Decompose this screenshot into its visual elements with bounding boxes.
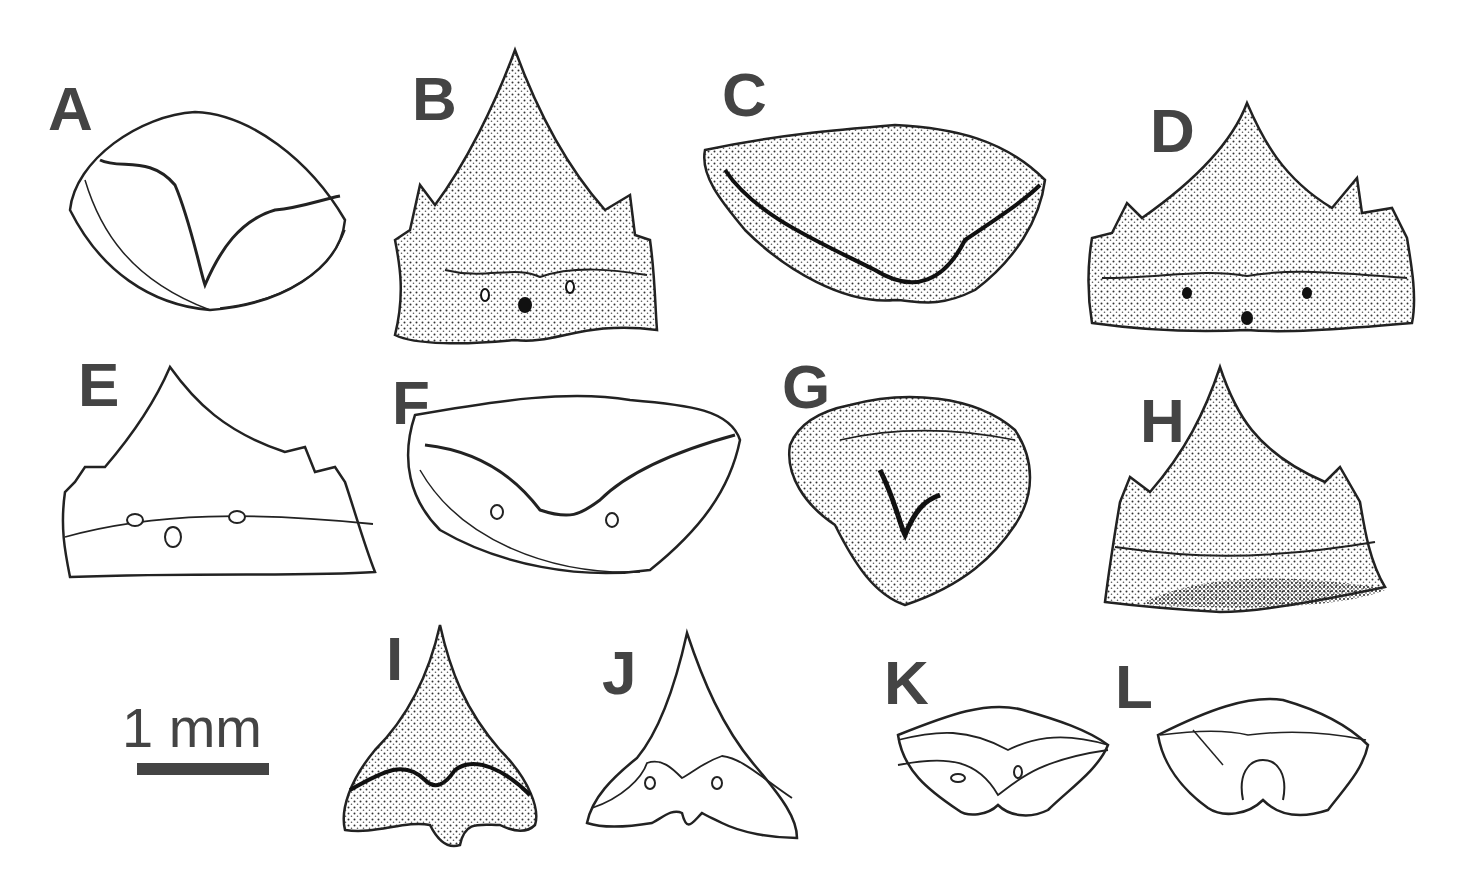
tooth-c-drawing (695, 120, 1055, 360)
tooth-b-drawing (385, 45, 665, 355)
tooth-i-drawing (335, 620, 560, 855)
label-c: C (722, 64, 767, 126)
figure-plate: A B C D E F G H I J K L 1 mm (0, 0, 1468, 880)
scale-bar-label: 1 mm (122, 700, 262, 756)
tooth-k-drawing (888, 690, 1118, 825)
tooth-h-drawing (1095, 362, 1395, 617)
tooth-l-drawing (1148, 690, 1378, 825)
tooth-e-drawing (55, 362, 385, 582)
tooth-d-drawing (1082, 98, 1422, 338)
tooth-j-drawing (582, 628, 812, 863)
tooth-a-drawing (60, 100, 360, 330)
tooth-g-drawing (785, 385, 1045, 615)
tooth-f-drawing (400, 390, 750, 585)
scale-bar (137, 763, 269, 775)
